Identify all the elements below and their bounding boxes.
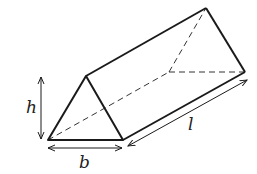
hidden-edge-bottom-diagonal	[48, 72, 169, 140]
prism-diagram: h b l	[0, 0, 257, 174]
height-label: h	[26, 97, 37, 117]
bottom-right-edge	[123, 72, 245, 140]
hidden-edges	[48, 8, 245, 140]
length-label: l	[188, 114, 193, 134]
top-ridge-edge	[86, 8, 206, 76]
prism-figure: h b l	[0, 0, 257, 174]
back-right-edge	[206, 8, 245, 72]
length-arrow	[128, 80, 247, 146]
base-label: b	[79, 152, 90, 172]
front-triangle-face	[48, 76, 123, 140]
visible-edges	[48, 8, 245, 140]
